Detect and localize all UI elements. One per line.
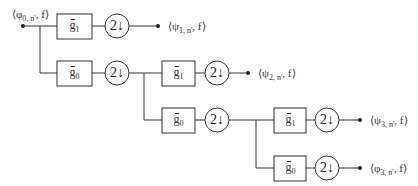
filter-label-g0-stage3: g0 bbox=[273, 160, 308, 179]
output-label-psi3: ⟨ψ3, n', f⟩ bbox=[370, 114, 408, 131]
output-label-phi3: ⟨φ3, n', f⟩ bbox=[370, 162, 407, 179]
output-node-phi3 bbox=[358, 166, 362, 170]
downsample-label-4: 2↓ bbox=[205, 112, 229, 128]
filter-label-g1-stage1: g1 bbox=[57, 18, 92, 37]
downsample-label-2: 2↓ bbox=[105, 65, 129, 81]
filter-label-g1-stage3: g1 bbox=[273, 112, 308, 131]
downsample-label-6: 2↓ bbox=[315, 160, 339, 176]
input-label: ⟨φ0, n', f⟩ bbox=[12, 8, 49, 25]
filter-label-g0-stage1: g0 bbox=[57, 65, 92, 84]
output-node-psi2 bbox=[246, 71, 250, 75]
output-node-psi3 bbox=[358, 118, 362, 122]
output-label-psi2: ⟨ψ2, n', f⟩ bbox=[258, 67, 296, 84]
filter-label-g0-stage2: g0 bbox=[161, 112, 196, 131]
downsample-label-5: 2↓ bbox=[315, 112, 339, 128]
output-node-psi1 bbox=[156, 24, 160, 28]
filter-bank-diagram: ⟨φ0, n', f⟩ ⟨ψ1, n', f⟩ ⟨ψ2, n', f⟩ ⟨ψ3,… bbox=[0, 0, 418, 186]
downsample-label-1: 2↓ bbox=[105, 18, 129, 34]
output-label-psi1: ⟨ψ1, n', f⟩ bbox=[168, 20, 206, 37]
downsample-label-3: 2↓ bbox=[205, 65, 229, 81]
filter-label-g1-stage2: g1 bbox=[161, 65, 196, 84]
